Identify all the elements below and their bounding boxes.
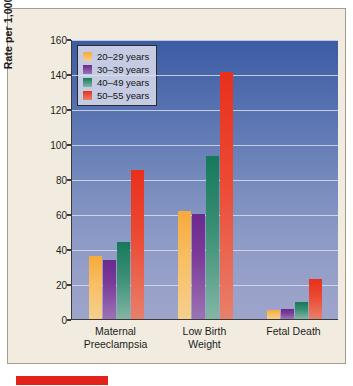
bar-group	[161, 40, 250, 319]
bar-group	[72, 40, 161, 319]
x-axis-category-line: Maternal	[71, 325, 160, 338]
x-axis-category-line: Weight	[160, 338, 249, 351]
bar	[117, 242, 130, 319]
bar	[309, 279, 322, 319]
bar	[281, 309, 294, 320]
bar	[89, 256, 102, 319]
bar	[178, 211, 191, 320]
bottom-red-marker	[16, 376, 108, 385]
figure-card: Rate per 1,000 Deliveries 02040608010012…	[7, 8, 346, 364]
y-axis-tick-label: 0	[41, 315, 67, 326]
bar-group	[250, 40, 339, 319]
y-axis-tick-label: 160	[41, 35, 67, 46]
bar	[295, 302, 308, 320]
y-axis-tick-label: 40	[41, 245, 67, 256]
x-axis-category-label: Fetal Death	[249, 325, 338, 338]
bar	[206, 156, 219, 319]
bar	[192, 214, 205, 319]
x-axis-category-line: Fetal Death	[249, 325, 338, 338]
bar	[131, 170, 144, 319]
y-axis-title: Rate per 1,000 Deliveries	[2, 0, 14, 101]
y-axis-tick-label: 100	[41, 140, 67, 151]
x-axis-category-label: MaternalPreeclampsia	[71, 325, 160, 351]
y-axis-tick-label: 140	[41, 70, 67, 81]
y-axis-tick-label: 20	[41, 280, 67, 291]
y-axis-tick-labels: 020406080100120140160	[39, 40, 67, 320]
x-axis-category-label: Low BirthWeight	[160, 325, 249, 351]
x-axis-category-line: Low Birth	[160, 325, 249, 338]
x-axis-category-line: Preeclampsia	[71, 338, 160, 351]
y-axis-tick-label: 80	[41, 175, 67, 186]
y-axis-tick-label: 60	[41, 210, 67, 221]
plot-area: 20–29 years 30–39 years 40–49 years 50–5…	[71, 40, 338, 320]
bar	[103, 260, 116, 320]
bar	[220, 72, 233, 319]
y-axis-tick-label: 120	[41, 105, 67, 116]
x-axis-tick-labels: MaternalPreeclampsiaLow BirthWeightFetal…	[71, 323, 338, 365]
bar	[267, 310, 280, 319]
